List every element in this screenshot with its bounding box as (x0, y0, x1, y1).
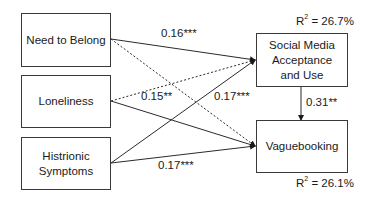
node-need-to-belong: Need to Belong (21, 13, 111, 67)
coef-loneliness-social: 0.15** (141, 90, 172, 102)
node-label: Histrionic Symptoms (38, 149, 94, 179)
node-label: Vaguebooking (266, 139, 339, 154)
coef-histrionic-vague: 0.17*** (158, 159, 194, 171)
node-histrionic-symptoms: Histrionic Symptoms (21, 137, 111, 190)
path-loneliness-to-vaguebooking (111, 101, 255, 146)
node-loneliness: Loneliness (21, 75, 111, 128)
node-vaguebooking: Vaguebooking (256, 120, 348, 173)
path-need_to_belong-to-social_media (111, 39, 255, 60)
coef-social-vague: 0.31** (306, 96, 337, 108)
path-histrionic-to-social_media (111, 60, 255, 163)
r2-vaguebooking: R2 = 26.1% (296, 177, 354, 189)
coef-histrionic-social: 0.17*** (214, 90, 250, 102)
r2-social-media: R2 = 26.7% (296, 15, 354, 27)
node-label: Social Media Acceptance and Use (261, 38, 343, 83)
coef-belong-social: 0.16*** (161, 27, 197, 39)
node-label: Need to Belong (26, 33, 105, 48)
node-social-media: Social Media Acceptance and Use (256, 33, 348, 87)
node-label: Loneliness (39, 94, 94, 109)
